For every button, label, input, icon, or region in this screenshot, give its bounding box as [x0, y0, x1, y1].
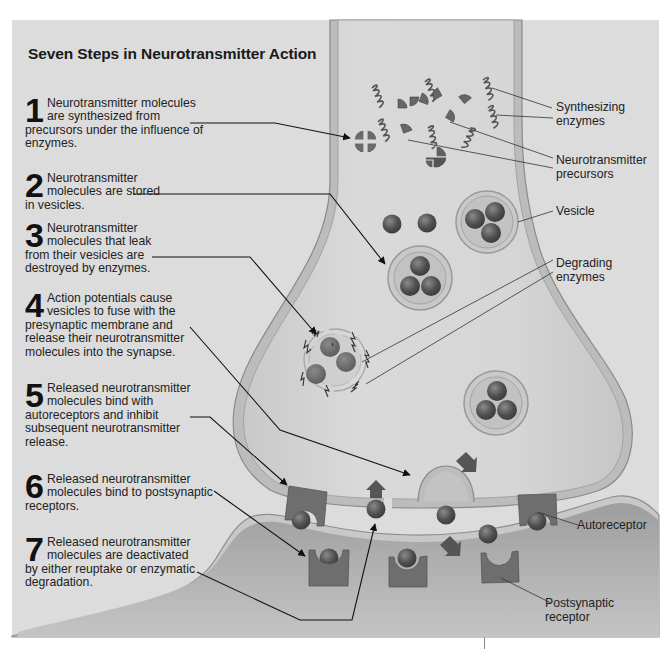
- step-text: Action potentials cause vesicles to fuse…: [25, 291, 184, 359]
- step-number: 7: [25, 536, 44, 562]
- step-number: 4: [25, 292, 44, 318]
- step-5: 5 Released neurotransmitter molecules bi…: [25, 382, 195, 449]
- step-number: 6: [25, 473, 44, 499]
- step-6: 6 Released neurotransmitter molecules bi…: [25, 473, 215, 513]
- label-synthesizing-enzymes: Synthesizing enzymes: [556, 100, 646, 128]
- step-text: Released neurotransmitter molecules bind…: [25, 381, 191, 449]
- vesicle-lower-right: [464, 371, 528, 435]
- step-number: 3: [25, 222, 44, 248]
- step-7: 7 Released neurotransmitter molecules ar…: [25, 536, 200, 590]
- vesicle-upper-right: [456, 191, 518, 253]
- step-2: 2 Neurotransmitter molecules are stored …: [25, 172, 165, 212]
- label-postsynaptic-receptor: Postsynaptic receptor: [545, 596, 625, 624]
- step-number: 2: [25, 172, 44, 198]
- step-3: 3 Neurotransmitter molecules that leak f…: [25, 222, 175, 276]
- step-text: Released neurotransmitter molecules bind…: [25, 472, 213, 513]
- label-degrading-enzymes: Degrading enzymes: [556, 256, 626, 284]
- step-number: 5: [25, 382, 44, 408]
- label-neurotransmitter-precursors: Neurotransmitter precursors: [556, 153, 656, 181]
- step-1: 1 Neurotransmitter molecules are synthes…: [25, 97, 205, 151]
- diagram-title: Seven Steps in Neurotransmitter Action: [28, 45, 316, 63]
- step-text: Neurotransmitter molecules are synthesiz…: [25, 96, 203, 150]
- step-text: Neurotransmitter molecules are stored in…: [25, 171, 160, 212]
- crop-tick-mark: [484, 637, 485, 649]
- step-text: Released neurotransmitter molecules are …: [25, 535, 195, 589]
- step-text: Neurotransmitter molecules that leak fro…: [25, 221, 151, 275]
- label-autoreceptor: Autoreceptor: [577, 518, 647, 532]
- label-vesicle: Vesicle: [556, 204, 595, 218]
- step-number: 1: [25, 97, 44, 123]
- vesicle-center: [388, 246, 452, 310]
- step-4: 4 Action potentials cause vesicles to fu…: [25, 292, 205, 359]
